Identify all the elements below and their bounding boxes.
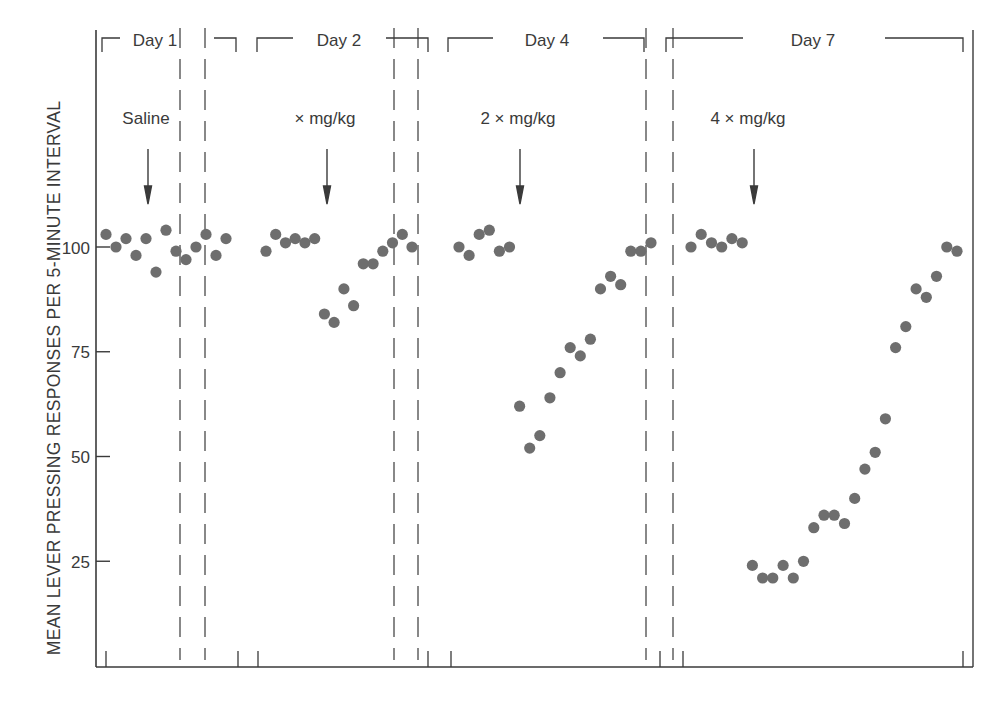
- data-point: [829, 510, 840, 521]
- dashed-separators: [180, 28, 673, 660]
- annotation-x-mgkg: × mg/kg: [295, 109, 356, 128]
- data-point: [494, 246, 505, 257]
- arrow-down-icon: [751, 149, 758, 204]
- y-axis-label: MEAN LEVER PRESSING RESPONSES PER 5-MINU…: [44, 101, 64, 655]
- data-point: [358, 258, 369, 269]
- data-point: [368, 258, 379, 269]
- data-point: [338, 283, 349, 294]
- arrow-down-icon: [145, 149, 152, 204]
- data-point: [859, 464, 870, 475]
- day-label-1: Day 1: [133, 31, 177, 50]
- data-point: [849, 493, 860, 504]
- data-point: [280, 237, 291, 248]
- data-points: [100, 225, 962, 584]
- data-point: [880, 413, 891, 424]
- data-point: [329, 317, 340, 328]
- data-point: [941, 241, 952, 252]
- data-point: [180, 254, 191, 265]
- data-point: [220, 233, 231, 244]
- data-point: [635, 246, 646, 257]
- data-point: [625, 246, 636, 257]
- day-label-4: Day 4: [525, 31, 569, 50]
- data-point: [870, 447, 881, 458]
- data-point: [150, 267, 161, 278]
- data-point: [778, 560, 789, 571]
- data-point: [798, 556, 809, 567]
- data-point: [348, 300, 359, 311]
- injection-arrows: [145, 149, 758, 204]
- bracket-day2-left: [257, 38, 293, 52]
- data-point: [706, 237, 717, 248]
- data-point: [200, 229, 211, 240]
- data-point: [696, 229, 707, 240]
- data-point: [565, 342, 576, 353]
- y-tick-label: 25: [71, 553, 90, 572]
- data-point: [605, 271, 616, 282]
- data-point: [726, 233, 737, 244]
- bracket-day4-left: [448, 38, 493, 52]
- data-point: [534, 430, 545, 441]
- dose-annotations: Saline × mg/kg 2 × mg/kg 4 × mg/kg: [122, 109, 785, 128]
- day-label-2: Day 2: [317, 31, 361, 50]
- data-point: [474, 229, 485, 240]
- data-point: [911, 283, 922, 294]
- data-point: [839, 518, 850, 529]
- data-point: [931, 271, 942, 282]
- data-point: [100, 229, 111, 240]
- data-point: [757, 572, 768, 583]
- data-point: [524, 443, 535, 454]
- chart: MEAN LEVER PRESSING RESPONSES PER 5-MINU…: [0, 0, 1003, 702]
- bracket-day1-left: [102, 38, 120, 52]
- data-point: [309, 233, 320, 244]
- data-point: [890, 342, 901, 353]
- data-point: [544, 392, 555, 403]
- data-point: [397, 229, 408, 240]
- data-point: [585, 334, 596, 345]
- data-point: [270, 229, 281, 240]
- data-point: [767, 572, 778, 583]
- data-point: [951, 246, 962, 257]
- data-point: [210, 250, 221, 261]
- data-point: [160, 225, 171, 236]
- data-point: [190, 241, 201, 252]
- bracket-day7-right: [885, 38, 963, 52]
- data-point: [299, 237, 310, 248]
- annotation-4x-mgkg: 4 × mg/kg: [710, 109, 785, 128]
- arrow-down-icon: [517, 149, 524, 204]
- data-point: [260, 246, 271, 257]
- bracket-day2-right: [386, 38, 428, 52]
- data-point: [110, 241, 121, 252]
- data-point: [921, 292, 932, 303]
- data-point: [319, 308, 330, 319]
- data-point: [645, 237, 656, 248]
- y-tick-label: 75: [71, 343, 90, 362]
- bracket-day1-right: [214, 38, 236, 52]
- data-point: [595, 283, 606, 294]
- annotation-saline: Saline: [122, 109, 169, 128]
- y-ticks: 255075100: [62, 239, 110, 572]
- bracket-day7-left: [666, 38, 743, 52]
- data-point: [484, 225, 495, 236]
- data-point: [170, 246, 181, 257]
- day-label-7: Day 7: [791, 31, 835, 50]
- data-point: [290, 233, 301, 244]
- annotation-2x-mgkg: 2 × mg/kg: [480, 109, 555, 128]
- data-point: [747, 560, 758, 571]
- data-point: [514, 401, 525, 412]
- data-point: [737, 237, 748, 248]
- data-point: [615, 279, 626, 290]
- data-point: [130, 250, 141, 261]
- arrow-down-icon: [324, 149, 331, 204]
- data-point: [453, 241, 464, 252]
- bracket-day4-right: [603, 38, 644, 52]
- data-point: [120, 233, 131, 244]
- data-point: [377, 246, 388, 257]
- data-point: [575, 350, 586, 361]
- y-tick-label: 100: [62, 239, 90, 258]
- data-point: [140, 233, 151, 244]
- day-labels: Day 1 Day 2 Day 4 Day 7: [133, 31, 835, 50]
- x-ticks: [106, 651, 963, 667]
- data-point: [555, 367, 566, 378]
- data-point: [387, 237, 398, 248]
- data-point: [808, 522, 819, 533]
